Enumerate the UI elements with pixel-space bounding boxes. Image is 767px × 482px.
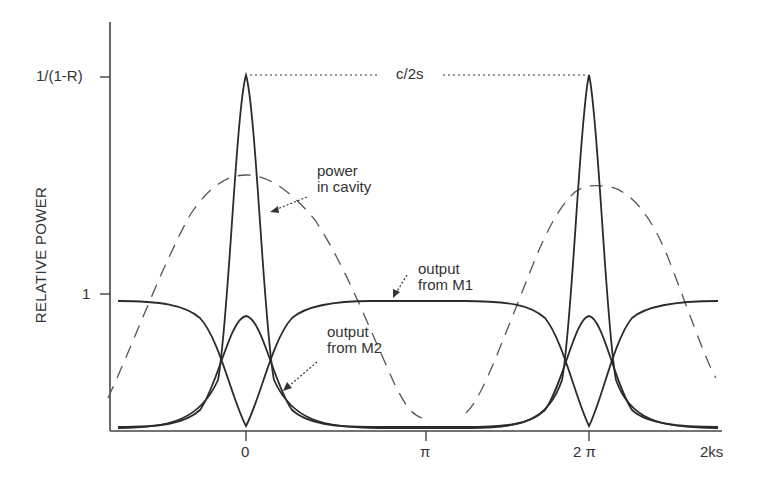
annotation-m1-line2: from M1	[418, 277, 473, 293]
fsr-label: c/2s	[396, 66, 424, 82]
annotation-cavity-line1: power	[317, 163, 358, 179]
arrow-output-m2	[283, 362, 317, 391]
x-axis-label: 2ks	[700, 444, 723, 460]
output-m2-curve	[118, 316, 718, 427]
x-tick-label-zero: 0	[241, 444, 249, 460]
annotation-m1-line1: output	[418, 261, 460, 277]
y-tick-label-one: 1	[82, 286, 90, 302]
y-axis-label: RELATIVE POWER	[32, 187, 49, 323]
cavity-peak-curve	[118, 75, 718, 428]
x-tick-label-pi: π	[420, 444, 430, 460]
y-tick-label-top: 1/(1-R)	[36, 68, 83, 84]
annotation-cavity-line2: in cavity	[317, 179, 371, 195]
chart-container: RELATIVE POWER 1/(1-R) 1 0 π 2 π 2ks c/2…	[0, 0, 767, 482]
x-tick-label-2pi: 2 π	[573, 444, 596, 460]
dashed-cavity-curve	[108, 175, 716, 418]
arrow-output-m1	[393, 275, 407, 298]
annotation-m2-line1: output	[327, 324, 369, 340]
output-m1-curve	[118, 301, 718, 426]
annotation-m2-line2: from M2	[327, 340, 382, 356]
plot-area	[0, 0, 767, 482]
